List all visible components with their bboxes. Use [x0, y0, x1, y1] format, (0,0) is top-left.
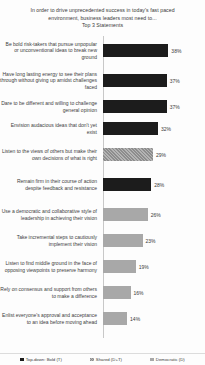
- legend-swatch-icon: [20, 358, 23, 361]
- bar-row: Listen to find middle ground in the face…: [0, 252, 205, 282]
- bar-track: 14%: [101, 304, 205, 334]
- bar-category-label: Dare to be different and willing to chal…: [0, 100, 101, 113]
- bar-row: Enlist everyone's approval and acceptanc…: [0, 304, 205, 334]
- bar-value-label: 29%: [156, 152, 166, 158]
- legend-swatch-icon: [90, 358, 93, 361]
- bar: [103, 178, 151, 191]
- bar: [103, 260, 136, 273]
- chart-title: In order to drive unprecedented success …: [0, 0, 205, 30]
- bar: [103, 44, 168, 57]
- bar-value-label: 37%: [170, 78, 180, 84]
- bar-row: Dare to be different and willing to chal…: [0, 96, 205, 118]
- bar-value-label: 38%: [171, 48, 181, 54]
- bar: [103, 100, 167, 113]
- bar-track: 38%: [101, 36, 205, 66]
- bar-category-label: Enlist everyone's approval and acceptanc…: [0, 312, 101, 325]
- bar-category-label: Listen to find middle ground in the face…: [0, 260, 101, 273]
- bar-value-label: 26%: [151, 212, 161, 218]
- chart-container: In order to drive unprecedented success …: [0, 0, 205, 365]
- bar-value-label: 14%: [130, 316, 140, 322]
- bar: [103, 234, 143, 247]
- bar-track: 23%: [101, 230, 205, 252]
- bar-category-label: Rely on consensus and support from other…: [0, 286, 101, 299]
- bar-row: Envision audacious ideas that don't yet …: [0, 118, 205, 140]
- bar-track: 16%: [101, 282, 205, 304]
- bar: [103, 208, 148, 221]
- bar-row: Listen to the views of others but make t…: [0, 140, 205, 170]
- chart-subtitle: Top 3 Statements: [18, 22, 187, 30]
- bar-category-label: Have long lasting energy to see their pl…: [0, 71, 101, 91]
- bar-track: 26%: [101, 200, 205, 230]
- bar: [103, 122, 158, 135]
- bar-category-label: Be bold risk-takers that pursue unpopula…: [0, 41, 101, 61]
- bar: [103, 312, 127, 325]
- bar-track: 37%: [101, 96, 205, 118]
- bar-value-label: 19%: [139, 264, 149, 270]
- legend-label: Top-down: Bold (T): [26, 357, 62, 362]
- bar-track: 32%: [101, 118, 205, 140]
- bar-track: 19%: [101, 252, 205, 282]
- bar: [103, 74, 167, 87]
- bar-value-label: 28%: [154, 182, 164, 188]
- bar-value-label: 32%: [161, 126, 171, 132]
- legend-item[interactable]: Top-down: Bold (T): [20, 357, 62, 362]
- bar-category-label: Remain firm in their course of action de…: [0, 178, 101, 191]
- chart-legend: Top-down: Bold (T)Shared (D+T)Democratic…: [0, 353, 205, 362]
- bar-row: Have long lasting energy to see their pl…: [0, 66, 205, 96]
- bar-track: 29%: [101, 140, 205, 170]
- bar-value-label: 37%: [170, 104, 180, 110]
- bar-row: Be bold risk-takers that pursue unpopula…: [0, 36, 205, 66]
- bar-category-label: Take incremental steps to cautiously imp…: [0, 234, 101, 247]
- bar-rows: Be bold risk-takers that pursue unpopula…: [0, 36, 205, 334]
- legend-swatch-icon: [150, 358, 153, 361]
- bar: [103, 286, 131, 299]
- bar-row: Remain firm in their course of action de…: [0, 170, 205, 200]
- bar-row: Use a democratic and collaborative style…: [0, 200, 205, 230]
- bar-category-label: Use a democratic and collaborative style…: [0, 208, 101, 221]
- legend-item[interactable]: Shared (D+T): [90, 357, 122, 362]
- bar-row: Take incremental steps to cautiously imp…: [0, 230, 205, 252]
- bar-track: 37%: [101, 66, 205, 96]
- bar-category-label: Envision audacious ideas that don't yet …: [0, 122, 101, 135]
- bar-value-label: 23%: [146, 238, 156, 244]
- legend-item[interactable]: Democratic (D): [150, 357, 184, 362]
- bar-value-label: 16%: [134, 290, 144, 296]
- chart-title-main: In order to drive unprecedented success …: [30, 7, 174, 21]
- bar: [103, 148, 153, 161]
- bar-category-label: Listen to the views of others but make t…: [0, 148, 101, 161]
- bar-row: Rely on consensus and support from other…: [0, 282, 205, 304]
- plot-area: Be bold risk-takers that pursue unpopula…: [0, 36, 205, 346]
- bar-track: 28%: [101, 170, 205, 200]
- legend-label: Democratic (D): [156, 357, 185, 362]
- legend-label: Shared (D+T): [96, 357, 122, 362]
